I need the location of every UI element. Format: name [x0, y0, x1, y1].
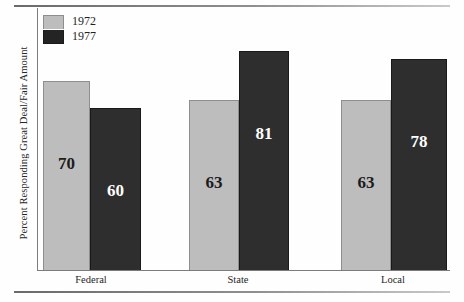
bar-local-1972: 63	[341, 100, 391, 270]
bar-value-label: 78	[392, 132, 446, 152]
bar-local-1977: 78	[391, 59, 447, 270]
bar-value-label: 63	[342, 173, 390, 193]
bar-value-label: 81	[240, 124, 288, 144]
bar-group-container: 706063816378	[38, 8, 450, 270]
y-axis-title: Percent Responding Great Deal/Fair Amoun…	[16, 8, 32, 278]
black-swatch-icon	[43, 30, 64, 44]
bar-value-label: 63	[190, 173, 238, 193]
bar-value-label: 60	[91, 181, 140, 201]
bar-federal-1972: 70	[43, 81, 90, 270]
bar-federal-1977: 60	[90, 108, 141, 270]
chart-legend: 1972 1977	[43, 14, 163, 44]
figure-top-rule	[14, 5, 450, 7]
category-label-federal: Federal	[31, 274, 151, 285]
category-label-state: State	[178, 274, 298, 285]
legend-item-1977: 1977	[43, 29, 163, 44]
figure-bottom-rule	[14, 291, 450, 293]
bar-value-label: 70	[44, 154, 89, 174]
light-gray-swatch-icon	[43, 15, 64, 29]
bar-chart-figure: Percent Responding Great Deal/Fair Amoun…	[0, 0, 464, 302]
bar-state-1972: 63	[189, 100, 239, 270]
bar-state-1977: 81	[239, 51, 289, 270]
plot-area: 706063816378	[37, 8, 450, 271]
legend-label: 1977	[72, 29, 96, 44]
legend-item-1972: 1972	[43, 14, 163, 29]
legend-label: 1972	[72, 14, 96, 29]
category-label-local: Local	[333, 274, 453, 285]
